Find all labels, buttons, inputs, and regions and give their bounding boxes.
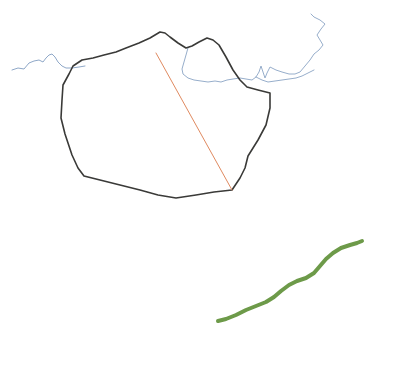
map-vector-surface[interactable]	[0, 0, 394, 368]
map-canvas[interactable]	[0, 0, 394, 368]
canvas-background	[0, 0, 394, 368]
